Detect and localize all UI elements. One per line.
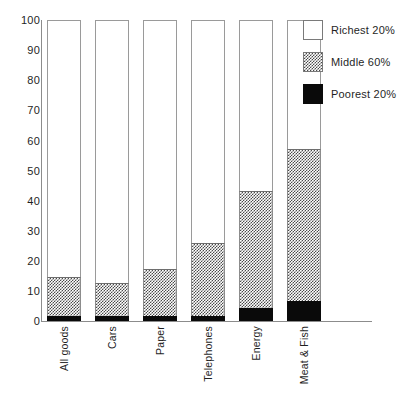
legend: Richest 20% Middle 60% Poorest 20% xyxy=(301,18,401,118)
bar-segment-middle xyxy=(191,243,225,316)
x-category-paper: Paper xyxy=(143,322,177,408)
legend-swatch-hatch-icon xyxy=(303,52,323,72)
x-category-label: All goods xyxy=(59,326,70,371)
bar-paper[interactable] xyxy=(143,20,177,321)
y-tick-label-0: 0 xyxy=(2,316,40,327)
y-tick-label-50: 50 xyxy=(2,166,40,177)
legend-swatch-black-icon xyxy=(303,84,323,104)
legend-item-middle[interactable]: Middle 60% xyxy=(301,52,401,73)
x-category-meat-and-fish: Meat & Fish xyxy=(287,322,321,408)
y-tick-label-70: 70 xyxy=(2,105,40,116)
bar-segment-middle xyxy=(47,277,81,316)
bar-segment-poorest xyxy=(143,316,177,321)
y-tick-label-60: 60 xyxy=(2,136,40,147)
x-category-cars: Cars xyxy=(95,322,129,408)
y-tick-label-100: 100 xyxy=(2,15,40,26)
legend-item-poorest[interactable]: Poorest 20% xyxy=(301,84,401,105)
bar-segment-poorest xyxy=(47,316,81,321)
x-category-label: Paper xyxy=(155,326,166,355)
x-category-energy: Energy xyxy=(239,322,273,408)
x-category-label: Cars xyxy=(107,326,118,349)
x-category-all-goods: All goods xyxy=(47,322,81,408)
x-category-label: Telephones xyxy=(203,326,214,382)
x-category-label: Meat & Fish xyxy=(299,326,310,384)
bar-segment-richest xyxy=(95,20,129,321)
bar-segment-poorest xyxy=(239,308,273,321)
bar-energy[interactable] xyxy=(239,20,273,321)
bar-segment-middle xyxy=(287,149,321,302)
bar-segment-middle xyxy=(239,191,273,308)
bar-segment-middle xyxy=(95,283,129,316)
stacked-bar-chart: 100 90 80 70 60 50 40 30 20 10 0 xyxy=(0,0,401,408)
legend-label: Richest 20% xyxy=(331,24,395,36)
y-tick-label-20: 20 xyxy=(2,256,40,267)
bar-all-goods[interactable] xyxy=(47,20,81,321)
x-category-label: Energy xyxy=(251,326,262,360)
legend-item-richest[interactable]: Richest 20% xyxy=(301,20,401,41)
bar-cars[interactable] xyxy=(95,20,129,321)
bar-telephones[interactable] xyxy=(191,20,225,321)
y-tick-label-10: 10 xyxy=(2,286,40,297)
x-category-telephones: Telephones xyxy=(191,322,225,408)
bar-segment-poorest xyxy=(191,316,225,321)
y-tick-label-80: 80 xyxy=(2,75,40,86)
legend-label: Poorest 20% xyxy=(331,88,396,100)
bar-segment-poorest xyxy=(287,301,321,321)
y-tick-label-30: 30 xyxy=(2,226,40,237)
y-axis: 100 90 80 70 60 50 40 30 20 10 0 xyxy=(0,0,40,408)
y-tick-label-40: 40 xyxy=(2,196,40,207)
x-axis: All goods Cars Paper Telephones Energy M… xyxy=(41,322,372,408)
bar-segment-middle xyxy=(143,269,177,316)
legend-label: Middle 60% xyxy=(331,56,390,68)
y-tick-label-90: 90 xyxy=(2,45,40,56)
legend-swatch-white-icon xyxy=(303,20,323,40)
bar-segment-poorest xyxy=(95,316,129,321)
